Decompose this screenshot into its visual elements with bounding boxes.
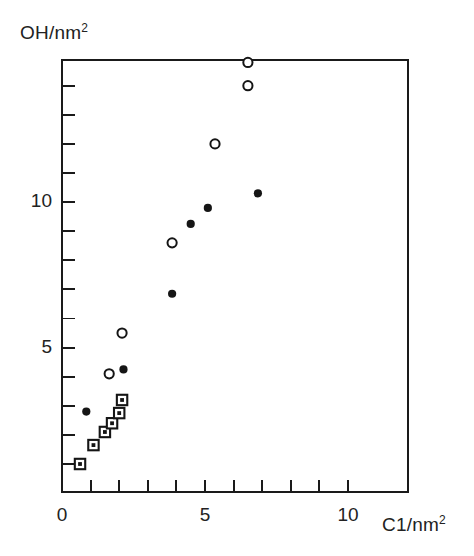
scatter-chart-figure: OH/nm2 C1/nm2 5100510 (0, 0, 474, 556)
marker-dotted-square-center (120, 398, 124, 402)
marker-open-circle (117, 328, 126, 337)
x-tick-label-5: 5 (175, 504, 235, 526)
marker-open-circle (168, 238, 177, 247)
marker-dotted-square-center (103, 430, 107, 434)
marker-dotted-square-center (78, 462, 82, 466)
marker-dotted-square-center (110, 421, 114, 425)
marker-dotted-square-center (92, 443, 96, 447)
marker-filled-circle (254, 189, 262, 197)
x-tick-label-0: 0 (32, 504, 92, 526)
data-markers (75, 58, 262, 469)
marker-filled-circle (168, 290, 176, 298)
marker-dotted-square-center (117, 411, 121, 415)
marker-filled-circle (204, 204, 212, 212)
y-tick-label-10: 10 (10, 190, 52, 212)
marker-filled-circle (82, 408, 90, 416)
marker-open-circle (243, 58, 252, 67)
x-tick-label-10: 10 (318, 504, 378, 526)
marker-open-circle (105, 369, 114, 378)
marker-filled-circle (187, 220, 195, 228)
y-tick-label-5: 5 (10, 336, 52, 358)
marker-open-circle (243, 81, 252, 90)
plot-area (0, 0, 474, 556)
marker-filled-circle (119, 365, 127, 373)
marker-open-circle (210, 139, 219, 148)
